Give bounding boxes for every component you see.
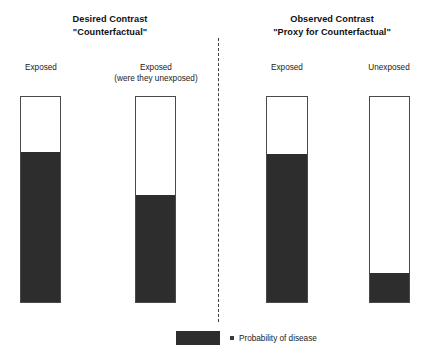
panel-divider — [218, 38, 219, 322]
panel-title-desired-line1: Desired Contrast — [73, 14, 148, 24]
legend: Probability of disease — [176, 331, 317, 345]
panel-title-observed: Observed Contrast "Proxy for Counterfact… — [232, 13, 430, 39]
bar-label-exposed-counterfactual: Exposed (were they unexposed) — [95, 62, 217, 84]
bar-exposed-desired — [20, 96, 61, 303]
legend-bullet-icon — [230, 336, 234, 340]
bar-label-exposed-desired-line1: Exposed — [25, 63, 57, 72]
bar-unexposed-observed — [369, 96, 410, 303]
panel-title-desired-line2: "Counterfactual" — [10, 26, 210, 39]
legend-label: Probability of disease — [239, 334, 317, 343]
bar-fill-exposed-observed — [267, 154, 307, 302]
panel-title-desired: Desired Contrast "Counterfactual" — [10, 13, 210, 39]
bar-fill-unexposed-observed — [370, 273, 409, 302]
panel-title-observed-line2: "Proxy for Counterfactual" — [232, 26, 430, 39]
bar-label-unexposed-observed-line1: Unexposed — [368, 63, 409, 72]
bar-exposed-observed — [266, 96, 308, 303]
bar-label-exposed-desired: Exposed — [0, 62, 102, 73]
bar-label-exposed-counterfactual-line1: Exposed — [140, 63, 172, 72]
bar-label-exposed-observed-line1: Exposed — [271, 63, 303, 72]
bar-exposed-counterfactual — [135, 96, 176, 303]
legend-swatch-probability — [176, 331, 220, 345]
bar-label-exposed-counterfactual-line2: (were they unexposed) — [95, 73, 217, 84]
bar-label-unexposed-observed: Unexposed — [328, 62, 430, 73]
bar-fill-exposed-counterfactual — [136, 195, 175, 302]
panel-title-observed-line1: Observed Contrast — [290, 14, 374, 24]
bar-fill-exposed-desired — [21, 152, 60, 302]
